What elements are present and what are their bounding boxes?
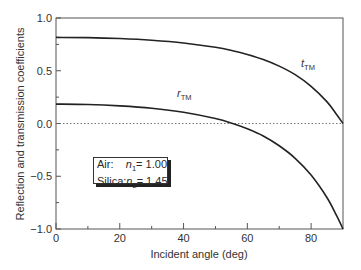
r-tm-label: rTM: [177, 87, 192, 102]
svg-text:20: 20: [114, 232, 126, 244]
t-tm-label: tTM: [301, 57, 315, 72]
legend-medium: Air:: [97, 158, 126, 175]
legend-row-air: Air: n1 = 1.00: [97, 158, 167, 175]
svg-text:40: 40: [177, 232, 189, 244]
legend-index: n2: [126, 175, 136, 192]
legend-medium: Silica:: [97, 175, 126, 192]
chart: 1.00.50.0−0.5−1.0 020406080 tTM rTM Inci…: [0, 0, 361, 270]
legend-value: = 1.00: [136, 158, 167, 175]
x-tick-labels: 020406080: [53, 232, 317, 244]
y-axis-title: Reflection and transmission coefficients: [14, 27, 26, 221]
axis-ticks: [56, 18, 311, 229]
svg-text:80: 80: [305, 232, 317, 244]
svg-text:60: 60: [241, 232, 253, 244]
svg-text:0.0: 0.0: [37, 118, 52, 130]
svg-text:0: 0: [53, 232, 59, 244]
t-tm-curve: [56, 37, 343, 123]
svg-text:1.0: 1.0: [37, 12, 52, 24]
legend-row-silica: Silica: n2 = 1.45: [97, 175, 167, 192]
svg-text:0.5: 0.5: [37, 65, 52, 77]
material-legend: Air: n1 = 1.00 Silica: n2 = 1.45: [93, 157, 168, 184]
svg-text:−1.0: −1.0: [30, 223, 52, 235]
x-axis-title: Incident angle (deg): [150, 248, 247, 260]
legend-value: = 1.45: [137, 175, 168, 192]
legend-index: n1: [126, 158, 136, 175]
svg-text:−0.5: −0.5: [30, 170, 52, 182]
y-tick-labels: 1.00.50.0−0.5−1.0: [30, 12, 52, 235]
